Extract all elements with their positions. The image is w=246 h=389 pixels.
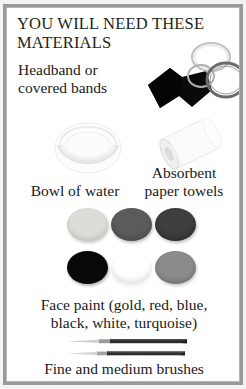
face-paint-swatch-gold [67,208,108,241]
face-paint-swatch-red [111,208,152,241]
paint-brushes-icon [65,336,189,360]
face-paint-swatch-white [111,251,152,284]
materials-card: YOU WILL NEED THESE MATERIALS Headband o… [0,0,246,389]
face-paint-swatch-blue [155,208,196,241]
face-paint-swatch-turquoise [155,251,196,284]
paper-towels-label: Absorbent paper towels [131,164,237,200]
bowl-of-water-icon [50,120,126,182]
bowl-of-water-label: Bowl of water [14,182,136,200]
card-content: YOU WILL NEED THESE MATERIALS Headband o… [7,8,239,381]
face-paint-discs-icon [52,204,202,296]
brushes-label: Fine and medium brushes [13,360,235,378]
face-paint-label: Face paint (gold, red, blue, black, whit… [13,296,235,332]
headband-label: Headband or covered bands [18,61,143,97]
face-paint-swatch-black [67,251,108,284]
elastic-bands-icon [185,40,239,102]
